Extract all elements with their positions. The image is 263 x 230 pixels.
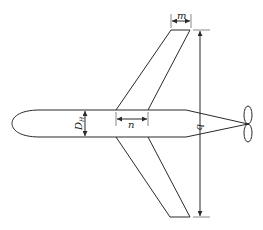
dimension-dh: DH: [73, 111, 85, 136]
dimension-n: n: [116, 112, 148, 130]
label-m: m: [177, 10, 186, 21]
label-b: b: [195, 124, 206, 130]
label-dh: DH: [73, 116, 85, 131]
aircraft-diagram: m b n DH: [0, 0, 263, 230]
lower-wing: [116, 137, 190, 217]
dimension-b: b: [193, 30, 210, 217]
propeller: [244, 106, 252, 142]
fuselage: [12, 110, 186, 137]
dimension-m: m: [171, 10, 191, 28]
upper-wing: [116, 30, 190, 110]
label-n: n: [128, 119, 134, 130]
